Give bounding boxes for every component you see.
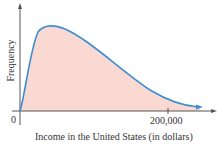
x-axis-arrow-icon: [211, 109, 217, 113]
tick-label-200000: 200,000: [150, 115, 183, 126]
y-axis-label: Frequency: [5, 36, 16, 86]
origin-label: 0: [11, 114, 16, 125]
y-axis-arrow-icon: [18, 3, 22, 9]
distribution-area: [20, 26, 200, 111]
x-axis-label: Income in the United States (in dollars): [35, 131, 193, 142]
chart-canvas: [0, 0, 219, 150]
